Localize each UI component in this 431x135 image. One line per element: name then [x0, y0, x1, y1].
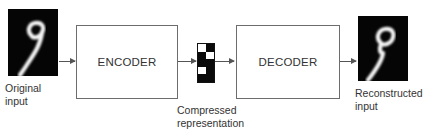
code-cell	[206, 67, 214, 75]
digit-nine-icon	[358, 16, 408, 81]
code-cell	[206, 74, 214, 82]
code-cell	[206, 59, 214, 67]
original-input-image	[8, 9, 58, 76]
reconstructed-label-line2: input	[355, 100, 423, 113]
arrow-input-to-encoder	[59, 61, 75, 62]
code-cell	[198, 59, 206, 67]
compressed-representation-grid	[197, 43, 215, 83]
original-input-label-line1: Original	[5, 82, 41, 95]
original-input-label: Original input	[5, 82, 41, 107]
compressed-representation-label: Compressed representation	[177, 104, 244, 129]
compressed-label-line1: Compressed	[177, 104, 244, 117]
decoder-box: DECODER	[236, 25, 340, 99]
compressed-label-line2: representation	[177, 117, 244, 130]
reconstructed-input-image	[358, 16, 408, 81]
reconstructed-label-line1: Reconstructed	[355, 87, 423, 100]
reconstructed-input-label: Reconstructed input	[355, 87, 423, 112]
original-input-label-line2: input	[5, 95, 41, 108]
arrow-code-to-decoder	[215, 61, 234, 62]
encoder-box: ENCODER	[76, 25, 178, 99]
code-cell	[198, 67, 206, 75]
code-cell	[198, 52, 206, 60]
code-cell	[206, 44, 214, 52]
digit-nine-icon	[8, 9, 58, 76]
arrow-decoder-to-output	[340, 61, 356, 62]
code-cell	[206, 52, 214, 60]
code-cell	[198, 74, 206, 82]
code-cell	[198, 44, 206, 52]
arrow-encoder-to-code	[178, 61, 196, 62]
encoder-label: ENCODER	[98, 56, 157, 68]
decoder-label: DECODER	[259, 56, 318, 68]
